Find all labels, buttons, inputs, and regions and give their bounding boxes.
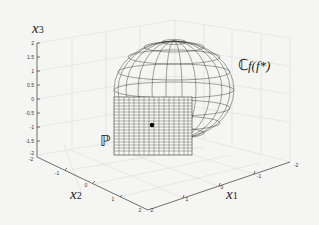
svg-text:1: 1 [31, 68, 34, 74]
svg-text:2: 2 [139, 207, 142, 213]
svg-text:-1.5: -1.5 [25, 138, 34, 144]
svg-text:-1: -1 [55, 170, 60, 176]
svg-text:0: 0 [31, 96, 34, 102]
svg-text:1: 1 [186, 196, 189, 202]
svg-text:-1: -1 [257, 173, 262, 179]
ellipsoid-annotation: ℂf(f*) [238, 57, 270, 73]
svg-text:0: 0 [221, 184, 224, 190]
plane-grid-patch [114, 97, 192, 155]
svg-text:2: 2 [31, 40, 34, 46]
plane-annotation: ℙ [100, 133, 111, 149]
x3-tick-labels: 2 1.5 1 0.5 0 -0.5 -1 -1.5 -2 [25, 40, 34, 156]
center-point-marker [150, 123, 154, 127]
x1-tick-labels: 2 1 0 -1 -2 [151, 162, 299, 213]
svg-text:-2: -2 [294, 162, 299, 168]
x1-axis-label: x1 [225, 186, 238, 202]
svg-text:0: 0 [85, 182, 88, 188]
x2-tick-labels: -2 -1 0 1 2 [29, 156, 142, 213]
svg-text:-0.5: -0.5 [25, 110, 34, 116]
x3-axis-label: x3 [31, 20, 44, 36]
svg-text:1: 1 [112, 196, 115, 202]
figure-3d-plot: 2 1.5 1 0.5 0 -0.5 -1 -1.5 -2 -2 -1 0 1 … [0, 0, 319, 225]
svg-text:0.5: 0.5 [27, 82, 34, 88]
plot-canvas: 2 1.5 1 0.5 0 -0.5 -1 -1.5 -2 -2 -1 0 1 … [0, 0, 319, 225]
svg-text:-1: -1 [30, 124, 35, 130]
svg-text:2: 2 [151, 207, 154, 213]
svg-text:1.5: 1.5 [27, 54, 34, 60]
svg-text:-2: -2 [29, 156, 34, 162]
